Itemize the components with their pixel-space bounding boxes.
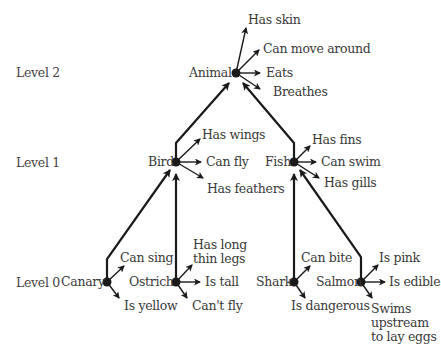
- canary-prop-can-sing: Can sing: [120, 251, 173, 265]
- level-0-label: Level 0: [16, 275, 60, 290]
- salmon-label: Salmon: [316, 275, 362, 289]
- salmon-prop-is-edible: Is edible: [389, 275, 440, 289]
- ostrich-label: Ostrich: [129, 275, 174, 289]
- salmon-prop-swims-upstream: Swims upstream to lay eggs: [371, 302, 437, 344]
- animal-prop-has-skin: Has skin: [248, 13, 300, 27]
- level-1-label: Level 1: [16, 155, 60, 170]
- ostrich-prop-is-tall: Is tall: [205, 275, 239, 289]
- bird-prop-can-fly: Can fly: [206, 155, 249, 169]
- shark-label: Shark: [256, 275, 292, 289]
- bird-label: Bird: [148, 155, 174, 169]
- ostrich-prop-has-long-thin-legs: Has long thin legs: [193, 238, 247, 266]
- animal-prop-can-move-around: Can move around: [263, 42, 370, 56]
- animal-prop-eats: Eats: [266, 66, 293, 80]
- fish-prop-has-fins: Has fins: [312, 133, 361, 147]
- animal-prop-breathes: Breathes: [273, 85, 328, 99]
- fish-prop-can-swim: Can swim: [321, 155, 381, 169]
- fish-label: Fish: [265, 155, 291, 169]
- bird-prop-has-feathers: Has feathers: [207, 182, 284, 196]
- node-animal: [232, 69, 241, 78]
- animal-label: Animal: [189, 66, 232, 80]
- canary-prop-is-yellow: Is yellow: [124, 299, 177, 313]
- link-bird-animal: [176, 83, 229, 158]
- level-2-label: Level 2: [16, 65, 60, 80]
- canary-label: Canary: [61, 275, 105, 289]
- bird-prop-has-wings: Has wings: [202, 128, 265, 142]
- fish-prop-has-gills: Has gills: [324, 176, 376, 190]
- ostrich-prop-cant-fly: Can't fly: [192, 299, 243, 313]
- salmon-prop-is-pink: Is pink: [379, 251, 420, 265]
- shark-prop-is-dangerous: Is dangerous: [291, 299, 370, 313]
- shark-prop-can-bite: Can bite: [301, 251, 352, 265]
